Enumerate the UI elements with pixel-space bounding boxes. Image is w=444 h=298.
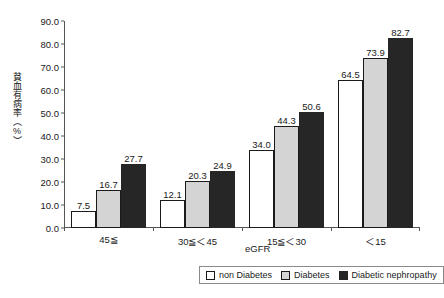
bar-value-label: 44.3 (277, 115, 296, 126)
y-axis-tick-mark (61, 90, 64, 91)
bar: 73.9 (363, 58, 388, 228)
y-axis-title: 貧血有病率（%） (6, 72, 22, 145)
y-axis-tick-mark (61, 159, 64, 160)
legend-label: Diabetic nephropathy (352, 270, 437, 280)
x-axis-tick-label: 30≦＜45 (178, 234, 217, 248)
bar-value-label: 64.5 (341, 69, 360, 80)
y-axis-tick-mark (61, 205, 64, 206)
bar-group: 64.573.982.7＜15 (338, 21, 413, 228)
bar-value-label: 12.1 (163, 189, 182, 200)
bar-value-label: 27.7 (124, 153, 143, 164)
x-axis-tick-mark (153, 228, 154, 231)
x-axis-tick-mark (64, 228, 65, 231)
bar-value-label: 16.7 (99, 179, 118, 190)
bar-value-label: 7.5 (77, 200, 90, 211)
bar: 82.7 (388, 38, 413, 228)
y-axis-tick-mark (61, 136, 64, 137)
x-axis-tick-label: ＜15 (365, 234, 386, 248)
bar: 7.5 (71, 211, 96, 228)
bar: 44.3 (274, 126, 299, 228)
legend-swatch (339, 271, 348, 280)
bar-value-label: 50.6 (302, 101, 321, 112)
legend-label: non Diabetes (219, 270, 272, 280)
bar-group: 12.120.324.930≦＜45 (160, 21, 235, 228)
bar: 16.7 (96, 190, 121, 228)
bar: 64.5 (338, 80, 363, 228)
legend-item: Diabetic nephropathy (339, 270, 437, 280)
legend-item: non Diabetes (206, 270, 272, 280)
legend-item: Diabetes (281, 270, 330, 280)
x-axis-tick-mark (242, 228, 243, 231)
legend-label: Diabetes (294, 270, 330, 280)
y-axis-tick-mark (61, 182, 64, 183)
x-axis-tick-mark (331, 228, 332, 231)
bar-value-label: 20.3 (188, 170, 207, 181)
x-axis-tick-label: 45≦ (99, 234, 118, 245)
x-axis-title: eGFR (245, 243, 270, 254)
y-axis-tick-mark (61, 113, 64, 114)
y-axis-tick-mark (61, 67, 64, 68)
bar: 24.9 (210, 171, 235, 228)
x-axis-tick-label: 15≦＜30 (267, 234, 306, 248)
bar: 34.0 (249, 150, 274, 228)
bar-group: 7.516.727.745≦ (71, 21, 146, 228)
legend-swatch (206, 271, 215, 280)
bar-value-label: 34.0 (252, 139, 271, 150)
bar: 50.6 (299, 112, 324, 228)
plot-area: 90.080.070.060.050.040.030.020.010.00.0 … (64, 21, 420, 228)
bar: 27.7 (121, 164, 146, 228)
chart-legend: non DiabetesDiabetesDiabetic nephropathy (199, 266, 444, 284)
y-axis-tick-mark (61, 21, 64, 22)
y-axis-line (64, 21, 65, 228)
x-axis-tick-mark (419, 228, 420, 231)
bar-value-label: 73.9 (366, 47, 385, 58)
y-axis-tick-mark (61, 44, 64, 45)
bar: 20.3 (185, 181, 210, 228)
bar-value-label: 82.7 (391, 27, 410, 38)
bar: 12.1 (160, 200, 185, 228)
legend-swatch (281, 271, 290, 280)
bar-value-label: 24.9 (213, 160, 232, 171)
bar-group: 34.044.350.615≦＜30 (249, 21, 324, 228)
